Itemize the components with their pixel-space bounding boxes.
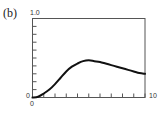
y-axis-top-label: 1.0 xyxy=(30,9,40,16)
chart-plot-area xyxy=(0,0,162,121)
y-axis-bottom-label: 0 xyxy=(26,92,30,99)
data-line xyxy=(33,60,146,97)
axis-ticks xyxy=(33,19,146,98)
x-axis-right-label: 10 xyxy=(149,92,157,99)
x-axis-left-label: 0 xyxy=(30,100,34,107)
plot-frame xyxy=(33,19,146,98)
